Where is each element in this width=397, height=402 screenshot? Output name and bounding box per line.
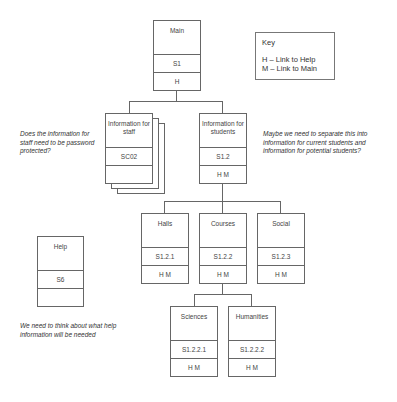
node-social: Social S1.2.3 H M bbox=[257, 213, 305, 284]
legend-title: Key bbox=[262, 38, 328, 47]
connector-staff-up bbox=[129, 101, 130, 113]
connector-social-up bbox=[280, 201, 281, 213]
legend-key: Key H – Link to Help M – Link to Main bbox=[255, 32, 335, 80]
node-links: H M bbox=[142, 265, 188, 283]
node-title: Information for students bbox=[200, 114, 246, 147]
node-staff: Information for staff SC02 bbox=[105, 113, 153, 184]
node-code: S1.2.2.2 bbox=[229, 340, 275, 358]
node-links bbox=[106, 165, 152, 183]
connector-courses-horizontal bbox=[194, 294, 252, 295]
node-help: Help S6 bbox=[37, 236, 84, 307]
node-code: S1 bbox=[154, 54, 200, 72]
node-main: Main S1 H bbox=[153, 20, 201, 91]
node-title: Halls bbox=[142, 214, 188, 247]
node-humanities: Humanities S1.2.2.2 H M bbox=[228, 306, 276, 377]
node-links: H bbox=[154, 72, 200, 90]
node-links: H M bbox=[258, 265, 304, 283]
node-sciences: Sciences S1.2.2.1 H M bbox=[170, 306, 218, 377]
node-links: H M bbox=[200, 265, 246, 283]
node-title: Sciences bbox=[171, 307, 217, 340]
node-title: Help bbox=[38, 237, 83, 270]
connector-humanities-up bbox=[251, 294, 252, 306]
node-code: S1.2.3 bbox=[258, 247, 304, 265]
connector-courses-up bbox=[222, 201, 223, 213]
connector-main-horizontal bbox=[129, 101, 223, 102]
node-code: S6 bbox=[38, 270, 83, 288]
connector-students-down bbox=[222, 183, 223, 201]
legend-item-main: M – Link to Main bbox=[262, 64, 328, 73]
node-code: S1.2.1 bbox=[142, 247, 188, 265]
node-links bbox=[38, 288, 83, 306]
connector-courses-down bbox=[222, 283, 223, 294]
node-halls: Halls S1.2.1 H M bbox=[141, 213, 189, 284]
node-title: Courses bbox=[200, 214, 246, 247]
node-code: S1.2.2.1 bbox=[171, 340, 217, 358]
connector-halls-up bbox=[164, 201, 165, 213]
node-title: Humanities bbox=[229, 307, 275, 340]
connector-students-up bbox=[222, 101, 223, 113]
node-students: Information for students S1.2 H M bbox=[199, 113, 247, 184]
note-staff: Does the information for staff need to b… bbox=[20, 130, 98, 156]
node-links: H M bbox=[171, 358, 217, 376]
node-links: H M bbox=[229, 358, 275, 376]
connector-sciences-up bbox=[194, 294, 195, 306]
connector-main-down bbox=[176, 90, 177, 101]
node-title: Main bbox=[154, 21, 200, 54]
node-code: SC02 bbox=[106, 147, 152, 165]
node-courses: Courses S1.2.2 H M bbox=[199, 213, 247, 284]
note-students: Maybe we need to separate this into info… bbox=[263, 130, 381, 156]
node-code: S1.2.2 bbox=[200, 247, 246, 265]
legend-item-help: H – Link to Help bbox=[262, 55, 328, 64]
node-links: H M bbox=[200, 165, 246, 183]
node-code: S1.2 bbox=[200, 147, 246, 165]
note-help: We need to think about what help informa… bbox=[20, 322, 124, 339]
node-title: Social bbox=[258, 214, 304, 247]
node-title: Information for staff bbox=[106, 114, 152, 147]
